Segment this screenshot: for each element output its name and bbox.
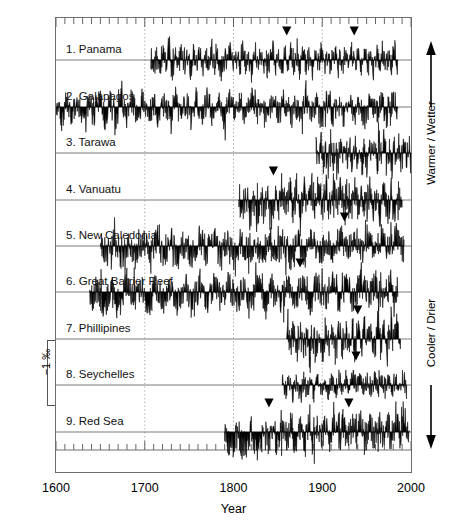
scale-bar-label: −1 ‰ <box>40 336 52 388</box>
arrow-down-icon <box>426 385 436 449</box>
scale-bar: −1 ‰ <box>36 340 56 406</box>
panel-label-1: 1. Panama <box>66 43 122 55</box>
series-trace-8 <box>282 370 406 403</box>
panel-label-7: 7. Phillipines <box>66 322 131 334</box>
event-marker-triangle <box>344 399 353 408</box>
event-marker-triangle <box>264 399 273 408</box>
panel-label-6: 6. Great Barrier Reef <box>66 275 173 287</box>
cooler-drier-label: Cooler / Drier <box>425 278 437 388</box>
series-trace-5 <box>100 217 404 276</box>
event-marker-triangle <box>269 167 278 176</box>
event-marker-triangle <box>282 27 291 36</box>
plot-area: 1. Panama2. Galapagos3. Tarawa4. Vanuatu… <box>55 17 412 473</box>
x-tick-label-2000: 2000 <box>381 481 441 495</box>
series-trace-3 <box>316 123 411 180</box>
series-trace-4 <box>239 173 402 236</box>
x-axis-title: Year <box>55 502 412 516</box>
series-trace-7 <box>287 307 401 373</box>
direction-arrows <box>412 17 450 473</box>
event-marker-triangle <box>350 27 359 36</box>
panel-label-5: 5. New Caledonia <box>66 229 157 241</box>
x-tick-label-1600: 1600 <box>26 481 86 495</box>
series-trace-6 <box>90 262 398 322</box>
panel-label-3: 3. Tarawa <box>66 136 116 148</box>
direction-legend: Warmer / Wetter Cooler / Drier <box>412 17 450 473</box>
panel-label-9: 9. Red Sea <box>66 415 124 427</box>
event-marker-triangle <box>340 213 349 222</box>
event-marker-triangle <box>353 306 362 315</box>
event-marker-triangle <box>351 352 360 361</box>
panel-label-8: 8. Seychelles <box>66 368 134 380</box>
x-tick-label-1800: 1800 <box>204 481 264 495</box>
panel-label-4: 4. Vanuatu <box>66 183 121 195</box>
x-tick-label-1700: 1700 <box>115 481 175 495</box>
coral-d18o-figure: Coral δ18O‰ −1 ‰ 1. Panama2. Galapagos3.… <box>0 0 450 521</box>
series-trace-9 <box>225 402 410 464</box>
panel-label-2: 2. Galapagos <box>66 90 134 102</box>
warmer-wetter-label: Warmer / Wetter <box>425 88 437 198</box>
plot-canvas <box>56 18 411 472</box>
x-tick-label-1900: 1900 <box>292 481 352 495</box>
